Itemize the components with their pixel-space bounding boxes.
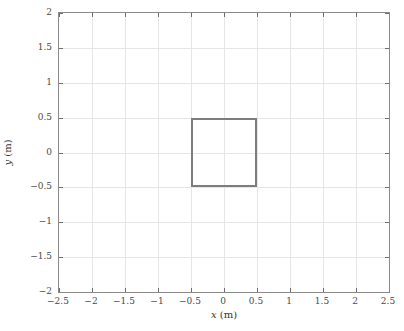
x-axis-tick-label: 2.5: [381, 296, 395, 306]
figure-canvas: y (m) x (m) −2.5−2−1.5−1−0.500.511.522.5…: [0, 0, 404, 331]
plot-area: [58, 12, 390, 293]
y-axis-tick-label: −2: [39, 286, 52, 296]
data-layer: [59, 13, 389, 292]
x-axis-tick-label: −1.5: [113, 296, 135, 306]
x-axis-tick-label: 2: [352, 296, 358, 306]
x-axis-tick-label: 1.5: [315, 296, 329, 306]
y-axis-tick-label: 0.5: [38, 112, 52, 122]
y-axis-tick-label: −1.5: [30, 251, 52, 261]
y-axis-tick-label: −0.5: [30, 181, 52, 191]
y-axis-tick-label: 2: [46, 7, 52, 17]
x-axis-tick-label: −1: [150, 296, 163, 306]
x-axis-tick-label: −2.5: [47, 296, 69, 306]
y-axis-label: y (m): [0, 12, 14, 293]
x-axis-tick-label: 0.5: [249, 296, 263, 306]
y-axis-tick-label: 1: [46, 77, 52, 87]
x-axis-label: x (m): [58, 309, 390, 320]
y-axis-tick-label: −1: [39, 216, 52, 226]
y-axis-tick-label: 0: [46, 147, 52, 157]
y-axis-label-variable: y: [2, 160, 13, 166]
x-axis-tick-label: −0.5: [179, 296, 201, 306]
y-axis-label-unit: (m): [2, 139, 13, 156]
y-axis-tick-label: 1.5: [38, 42, 52, 52]
x-axis-tick-label: 0: [220, 296, 226, 306]
series-square-path: [191, 118, 257, 188]
x-axis-tick-label: −2: [84, 296, 97, 306]
x-axis-label-variable: x: [211, 309, 217, 320]
x-axis-tick-label: 1: [286, 296, 292, 306]
x-axis-label-unit: (m): [220, 309, 237, 320]
